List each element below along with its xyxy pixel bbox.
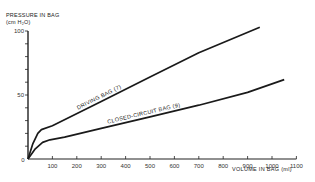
- x-tick-label: 400: [121, 163, 132, 169]
- x-tick-label: 300: [96, 163, 107, 169]
- x-tick-label: 1100: [290, 163, 304, 169]
- axis-ticks: 0100200300400500600700800900100011005010…: [14, 28, 304, 169]
- series-labels: DRIVING BAG (7)CLOSED-CIRCUIT BAG (9): [76, 83, 181, 124]
- line-chart: 0100200300400500600700800900100011005010…: [0, 0, 315, 182]
- y-tick-label: 100: [14, 28, 25, 34]
- x-tick-label: 100: [47, 163, 58, 169]
- series-lines: [28, 27, 284, 159]
- series-line-0: [28, 27, 260, 159]
- axes: [28, 31, 296, 159]
- x-tick-label: 800: [218, 163, 229, 169]
- x-tick-label: 200: [72, 163, 83, 169]
- x-tick-label: 700: [194, 163, 205, 169]
- series-label: DRIVING BAG (7): [76, 83, 122, 110]
- x-tick-label: 600: [169, 163, 180, 169]
- x-tick-label: 500: [145, 163, 156, 169]
- x-tick-label: 1000: [265, 163, 279, 169]
- x-tick-label: 900: [243, 163, 254, 169]
- series-label: CLOSED-CIRCUIT BAG (9): [107, 102, 181, 125]
- y-tick-label: 50: [17, 92, 24, 98]
- x-tick-label: 0: [21, 157, 25, 163]
